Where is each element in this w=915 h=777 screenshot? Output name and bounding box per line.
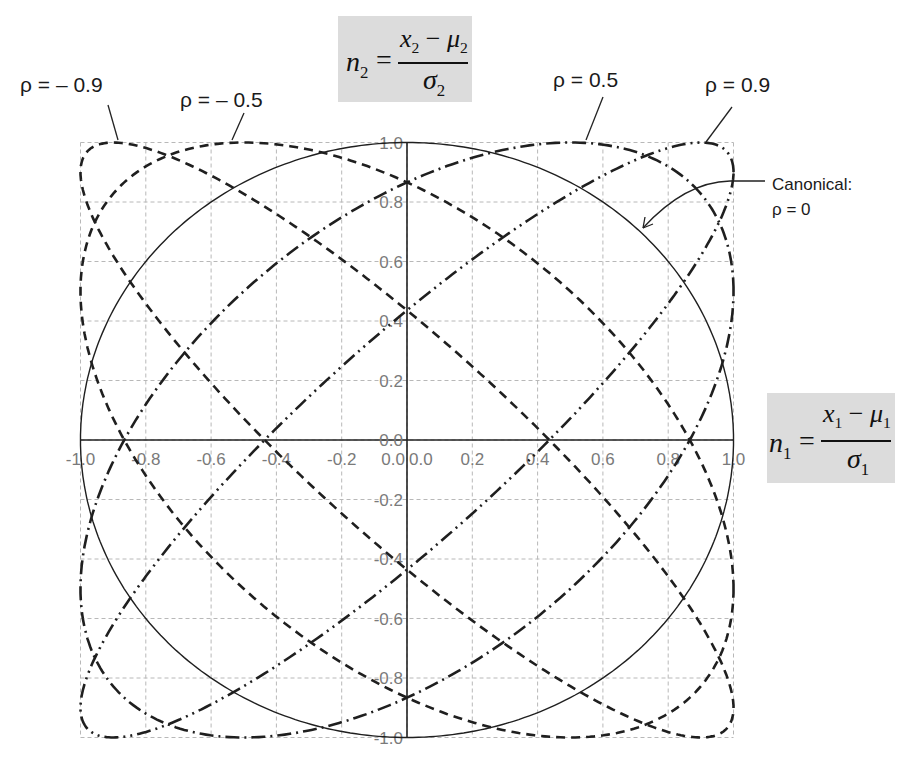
y-axis-formula-lhs: n2: [346, 46, 368, 83]
annotation-leader-line: [232, 113, 244, 140]
y-tick-label: 0.2: [379, 372, 403, 391]
annotation-leaders: [108, 97, 765, 228]
equals-sign: =: [799, 425, 815, 457]
y-tick-label: -0.6: [374, 610, 403, 629]
x-tick-label: -0.6: [196, 450, 225, 469]
canonical-leader-curve: [643, 181, 765, 228]
y-tick-label: 0.8: [379, 193, 403, 212]
y-tick-label: -0.2: [374, 491, 403, 510]
x-tick-label: -0.2: [327, 450, 356, 469]
x-tick-label: 0.6: [591, 450, 615, 469]
x-tick-label: 0.8: [656, 450, 680, 469]
label-canonical: Canonical:: [772, 175, 852, 194]
x-axis-formula-numerator: x1 − μ1: [823, 399, 891, 432]
y-tick-label: 0.0: [379, 431, 403, 450]
x-axis-formula-denominator: σ1: [847, 443, 869, 480]
label-rho-minus-0.9: ρ = – 0.9: [20, 73, 103, 96]
annotation-leader-line: [108, 105, 118, 140]
y-axis-formula-numerator: x2 − μ2: [400, 24, 468, 57]
label-rho-0.9: ρ = 0.9: [705, 73, 770, 96]
label-canonical-rho: ρ = 0: [772, 200, 811, 219]
x-axis-formula-lhs: n1: [769, 427, 791, 464]
x-tick-label: 0.2: [460, 450, 484, 469]
x-axis-formula-box: n1 = x1 − μ1 σ1: [767, 393, 895, 483]
label-rho-0.5: ρ = 0.5: [553, 68, 618, 91]
x-tick-label: 0.0: [381, 450, 405, 469]
annotation-leader-line: [586, 97, 603, 140]
fraction-bar: [821, 440, 891, 442]
y-axis-formula-box: n2 = x2 − μ2 σ2: [338, 16, 472, 102]
correlation-ellipses-chart: -1.0-0.8-0.6-0.4-0.20.00.00.20.40.60.81.…: [0, 0, 915, 777]
y-tick-label: -0.8: [374, 669, 403, 688]
equals-sign: =: [376, 44, 392, 76]
x-tick-label: 0.0: [409, 450, 433, 469]
y-axis-formula-denominator: σ2: [423, 64, 445, 101]
axes: [81, 143, 734, 738]
annotation-leader-line: [706, 107, 732, 142]
label-rho-minus-0.5: ρ = – 0.5: [180, 88, 263, 111]
y-tick-label: 0.6: [379, 253, 403, 272]
